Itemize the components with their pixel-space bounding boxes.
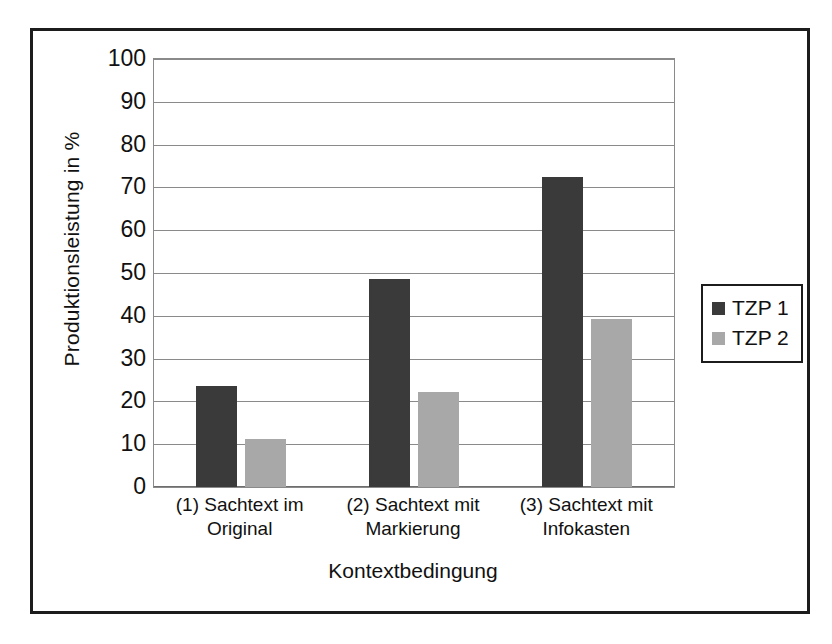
y-axis-tick-label: 40: [88, 303, 146, 326]
x-tick-label-line-2: Infokasten: [500, 517, 673, 541]
legend-swatch-icon: [712, 332, 725, 345]
bar[interactable]: [245, 439, 286, 487]
y-axis-tick-label: 60: [88, 218, 146, 241]
y-axis-tick-label: 20: [88, 389, 146, 412]
chart-legend: TZP 1TZP 2: [701, 284, 803, 363]
bar[interactable]: [542, 177, 583, 487]
x-tick-label-line-1: (1) Sachtext im: [176, 494, 304, 515]
bar-group: [196, 59, 286, 487]
legend-swatch-icon: [712, 302, 725, 315]
x-tick-label-line-2: Original: [153, 517, 326, 541]
bar[interactable]: [418, 392, 459, 487]
legend-label: TZP 1: [732, 296, 789, 320]
x-axis-tick-labels: (1) Sachtext imOriginal(2) Sachtext mitM…: [153, 493, 673, 555]
y-axis-tick-label: 100: [88, 47, 146, 70]
bar[interactable]: [369, 279, 410, 487]
y-axis-tick-label: 50: [88, 261, 146, 284]
bar[interactable]: [591, 319, 632, 487]
bar-group: [369, 59, 459, 487]
x-tick-label-line-2: Markierung: [326, 517, 499, 541]
x-tick-label-line-1: (2) Sachtext mit: [346, 494, 479, 515]
y-axis-tick-label: 80: [88, 132, 146, 155]
figure-frame: Produktionsleistung in % 100908070605040…: [30, 28, 810, 614]
legend-label: TZP 2: [732, 326, 789, 350]
legend-item[interactable]: TZP 1: [712, 293, 789, 323]
y-axis-tick-labels: 1009080706050403020100: [88, 31, 146, 617]
y-axis-tick-label: 0: [88, 475, 146, 498]
x-axis-title: Kontextbedingung: [153, 559, 673, 583]
bar-chart: Produktionsleistung in % 100908070605040…: [33, 31, 813, 617]
legend-item[interactable]: TZP 2: [712, 323, 789, 353]
y-axis-tick-label: 70: [88, 175, 146, 198]
bar[interactable]: [196, 386, 237, 487]
bar-group: [542, 59, 632, 487]
y-axis-tick-label: 30: [88, 346, 146, 369]
x-axis-tick-label: (3) Sachtext mitInfokasten: [500, 493, 673, 541]
y-axis-title: Produktionsleistung in %: [60, 99, 84, 399]
plot-area: [153, 58, 675, 488]
x-tick-label-line-1: (3) Sachtext mit: [520, 494, 653, 515]
y-axis-tick-label: 10: [88, 432, 146, 455]
x-axis-tick-label: (1) Sachtext imOriginal: [153, 493, 326, 541]
y-axis-tick-label: 90: [88, 89, 146, 112]
bars-layer: [154, 59, 674, 487]
x-axis-tick-label: (2) Sachtext mitMarkierung: [326, 493, 499, 541]
